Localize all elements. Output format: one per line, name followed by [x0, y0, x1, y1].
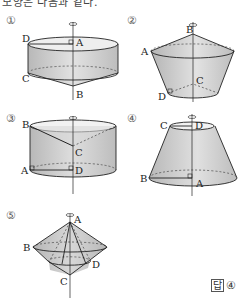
figure-2-number: ②: [127, 14, 137, 27]
label-C: C: [22, 73, 30, 84]
label-C: C: [60, 276, 68, 287]
figure-1-diagram: D A C B: [20, 16, 125, 102]
answer-label: 답: [211, 279, 224, 292]
label-A: A: [73, 214, 82, 225]
label-B: B: [76, 89, 83, 100]
figure-3-number: ③: [6, 112, 16, 125]
figure-2-diagram: B A C D: [140, 16, 240, 102]
label-D: D: [195, 120, 203, 131]
label-A: A: [20, 165, 29, 176]
label-A: A: [195, 178, 204, 189]
label-C: C: [160, 120, 168, 131]
label-A: A: [75, 37, 84, 48]
label-B: B: [23, 242, 30, 253]
figure-5-number: ⑤: [6, 209, 16, 222]
label-A: A: [140, 46, 149, 57]
label-D: D: [92, 259, 100, 270]
figure-1-number: ①: [6, 14, 16, 27]
label-D: D: [75, 165, 83, 176]
label-B: B: [186, 24, 193, 35]
label-B: B: [22, 119, 29, 130]
label-C: C: [75, 147, 83, 158]
label-D: D: [22, 33, 30, 44]
figure-3-diagram: B C A D: [20, 114, 125, 194]
figure-4-number: ④: [127, 112, 137, 125]
figure-5-diagram: A B D C: [20, 212, 120, 298]
figure-4-diagram: C D B A: [140, 114, 240, 196]
label-D: D: [158, 91, 166, 102]
label-B: B: [140, 173, 147, 184]
answer: 답 ④: [211, 279, 236, 292]
label-C: C: [196, 75, 204, 86]
answer-value: ④: [226, 279, 236, 292]
header-text: 모양은 다음과 같다.: [2, 0, 98, 9]
